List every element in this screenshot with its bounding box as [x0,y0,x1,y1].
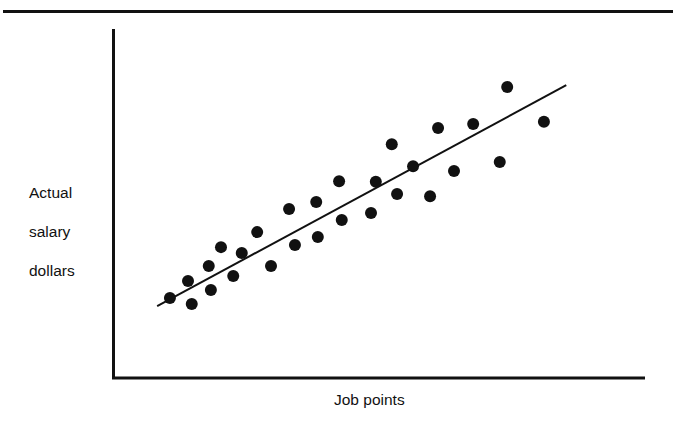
data-point [203,260,215,272]
scatter-plot [0,0,673,432]
y-axis-label-line-3: dollars [29,261,75,281]
data-point [205,284,217,296]
data-point [424,190,436,202]
data-point [365,207,377,219]
data-point [538,116,550,128]
data-point [265,260,277,272]
x-axis-label: Job points [334,390,405,409]
data-point [407,160,419,172]
data-point [312,231,324,243]
data-points [164,81,550,310]
y-axis-label: Actual salary dollars [29,163,75,300]
trend-line [157,85,566,306]
data-point [283,203,295,215]
data-point [336,214,348,226]
data-point [182,275,194,287]
data-point [236,247,248,259]
data-point [289,239,301,251]
data-point [467,118,479,130]
y-axis-label-line-1: Actual [29,183,75,203]
data-point [215,241,227,253]
data-point [164,292,176,304]
data-point [186,298,198,310]
data-point [251,226,263,238]
data-point [310,196,322,208]
data-point [333,175,345,187]
data-point [370,176,382,188]
data-point [391,188,403,200]
data-point [432,122,444,134]
data-point [501,81,513,93]
data-point [448,165,460,177]
data-point [386,138,398,150]
data-point [494,156,506,168]
data-point [227,270,239,282]
y-axis-label-line-2: salary [29,222,75,242]
